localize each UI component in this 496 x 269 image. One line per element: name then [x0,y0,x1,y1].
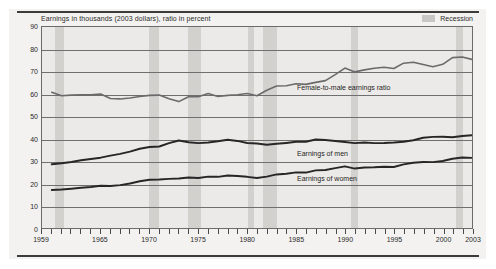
series-line [52,57,472,102]
x-tick [326,229,327,234]
plot-area [41,26,473,229]
top-rule [17,11,479,13]
y-axis: 0102030405060708090 [14,26,38,229]
x-tick [120,229,121,234]
x-tick [286,229,287,234]
x-tick-label: 1990 [338,236,354,243]
x-tick [178,229,179,234]
y-tick-label: 60 [20,90,38,97]
x-tick-label: 1965 [92,236,108,243]
x-tick [90,229,91,234]
x-tick [208,229,209,234]
legend: Recession [422,15,473,22]
x-tick [41,229,42,234]
x-tick [336,229,337,234]
series-line [52,157,472,190]
x-tick [375,229,376,234]
page-margin-bottom [0,259,496,269]
bottom-rule [17,255,479,257]
x-tick-label: 1995 [387,236,403,243]
recession-swatch-icon [422,15,435,22]
series-annotation-women: Earnings of women [297,175,357,182]
x-tick [463,229,464,234]
x-tick [365,229,366,234]
y-tick-label: 80 [20,45,38,52]
page-margin-left [0,0,9,269]
y-tick-label: 10 [20,203,38,210]
x-tick [247,229,248,234]
x-tick-label: 1985 [288,236,304,243]
y-tick-label: 50 [20,113,38,120]
x-axis: 1959196519701975198019851990199520002003 [41,229,473,251]
x-tick [61,229,62,234]
axis-units-subtitle: Earnings in thousands (2003 dollars), ra… [41,15,211,22]
x-tick [453,229,454,234]
x-tick [257,229,258,234]
series-annotation-men: Earnings of men [297,150,348,157]
x-tick [424,229,425,234]
x-tick [237,229,238,234]
x-tick [110,229,111,234]
y-tick-label: 70 [20,68,38,75]
x-tick [277,229,278,234]
x-tick [444,229,445,234]
x-tick [345,229,346,234]
x-tick-label: 1970 [141,236,157,243]
x-tick [149,229,150,234]
x-tick [306,229,307,234]
x-tick-label: 2000 [436,236,452,243]
y-tick-label: 0 [20,226,38,233]
series-lines [42,27,472,228]
x-tick-label: 1975 [190,236,206,243]
x-tick [385,229,386,234]
x-tick [434,229,435,234]
x-tick [473,229,474,234]
x-tick [267,229,268,234]
x-tick-label: 1959 [33,236,49,243]
x-tick [394,229,395,234]
y-tick-label: 90 [20,23,38,30]
series-annotation-ratio: Female-to-male earnings ratio [297,84,390,91]
series-line [52,135,472,164]
x-tick [198,229,199,234]
x-tick [139,229,140,234]
x-tick [70,229,71,234]
y-tick-label: 40 [20,135,38,142]
legend-label-recession: Recession [440,15,473,22]
x-tick-label: 2003 [465,236,481,243]
x-tick [159,229,160,234]
y-tick-label: 30 [20,158,38,165]
x-tick [404,229,405,234]
x-tick [51,229,52,234]
page-margin-top [0,0,496,9]
x-tick [80,229,81,234]
x-tick [296,229,297,234]
y-tick-label: 20 [20,180,38,187]
x-tick [129,229,130,234]
x-tick [355,229,356,234]
x-tick-label: 1980 [239,236,255,243]
x-tick [100,229,101,234]
x-tick [228,229,229,234]
x-tick [414,229,415,234]
chart-figure: Earnings in thousands (2003 dollars), ra… [0,0,496,269]
x-tick [316,229,317,234]
x-tick [218,229,219,234]
page-margin-right [486,0,496,269]
x-tick [169,229,170,234]
x-tick [188,229,189,234]
